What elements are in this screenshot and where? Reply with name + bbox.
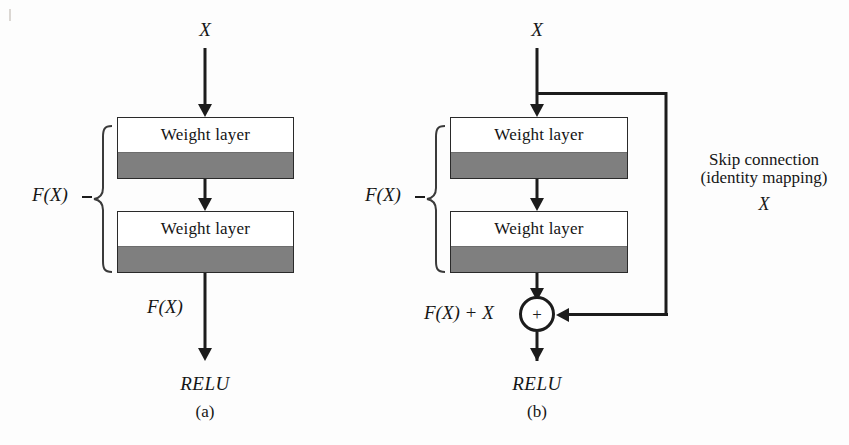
panel-b-weight-layer-1-label: Weight layer [451,118,627,152]
panel-b-weight-layer-1: Weight layer [450,117,628,179]
skip-connection-arrow-head [556,308,569,322]
panel-a-input-arrow-shaft [204,48,207,106]
panel-b-weight-layer-1-band [451,152,627,178]
summation-plus-symbol: + [532,306,542,323]
skip-connection-vertical-segment [665,92,668,315]
panel-b-sum-label: F(X) + X [424,303,494,323]
panel-a-inter-arrow-head [198,198,212,211]
panel-a-brace [92,124,114,274]
panel-a-weight-layer-2-band [118,246,293,272]
panel-a-output-label: F(X) [147,297,183,317]
panel-b-input-arrow-shaft [536,48,539,106]
skip-connection-top-segment [537,92,667,95]
skip-connection-label-line1: Skip connection [709,151,819,169]
panel-b-brace [425,124,447,274]
panel-a-input-label: X [199,20,211,40]
panel-a-caption: (a) [196,403,215,421]
panel-b-activation-label: RELU [512,374,562,394]
panel-a-weight-layer-1-label: Weight layer [118,118,293,152]
panel-b-weight-layer-2: Weight layer [450,211,628,273]
panel-a-output-arrow-shaft [204,273,207,351]
panel-a-weight-layer-2-label: Weight layer [118,212,293,246]
panel-b-bracket-label: F(X) [365,185,401,205]
panel-b-inter-arrow-head [530,198,544,211]
panel-a-weight-layer-1-band [118,152,293,178]
figure-canvas: X F(X) Weight layer Weight layer F(X) RE… [0,0,849,445]
panel-a-activation-label: RELU [180,374,230,394]
panel-a-weight-layer-2: Weight layer [117,211,294,273]
panel-a-bracket-label: F(X) [32,185,68,205]
summation-node: + [519,296,555,332]
skip-connection-bottom-segment [560,313,668,316]
panel-b-bracket-tick [415,196,425,198]
skip-connection-label-line3: X [759,195,770,214]
panel-b-weight-layer-2-label: Weight layer [451,212,627,246]
panel-b-caption: (b) [527,403,547,421]
panel-b-input-label: X [531,20,543,40]
panel-b-weight-layer-2-band [451,246,627,272]
panel-b-input-arrow-head [530,104,544,117]
panel-a-output-arrow-head [198,348,212,361]
panel-a-bracket-tick [82,196,92,198]
scan-artifact [9,9,11,21]
panel-a-input-arrow-head [198,104,212,117]
panel-a-weight-layer-1: Weight layer [117,117,294,179]
panel-b-output-arrow-head [530,348,544,361]
skip-connection-label-line2: (identity mapping) [700,169,827,187]
